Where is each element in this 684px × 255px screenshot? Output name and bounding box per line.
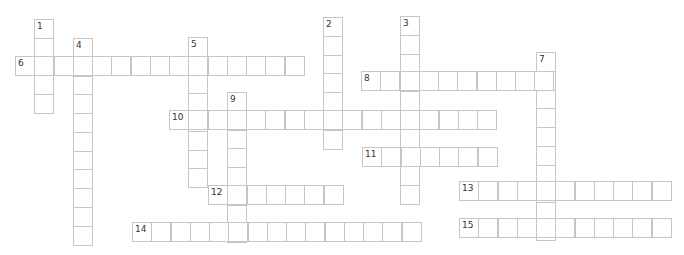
- crossword-cell[interactable]: [265, 56, 285, 76]
- crossword-cell[interactable]: [208, 110, 228, 130]
- crossword-cell[interactable]: [151, 222, 171, 242]
- crossword-cell[interactable]: [323, 73, 343, 93]
- crossword-cell[interactable]: [323, 92, 343, 112]
- crossword-cell[interactable]: [419, 110, 439, 130]
- crossword-cell[interactable]: [477, 71, 497, 91]
- crossword-cell[interactable]: [247, 185, 267, 205]
- crossword-cell[interactable]: [188, 75, 208, 95]
- crossword-cell[interactable]: [420, 147, 440, 167]
- crossword-cell[interactable]: [478, 181, 498, 201]
- crossword-cell[interactable]: [188, 131, 208, 151]
- crossword-cell[interactable]: [111, 56, 131, 76]
- crossword-cell[interactable]: [381, 147, 401, 167]
- crossword-cell[interactable]: [227, 167, 247, 187]
- crossword-cell[interactable]: [286, 222, 306, 242]
- crossword-cell[interactable]: [73, 94, 93, 114]
- crossword-cell[interactable]: 4: [73, 38, 93, 58]
- crossword-cell[interactable]: [227, 185, 247, 205]
- crossword-cell[interactable]: [285, 110, 305, 130]
- crossword-cell[interactable]: [285, 185, 305, 205]
- crossword-cell[interactable]: [362, 110, 382, 130]
- crossword-cell[interactable]: [400, 129, 420, 149]
- crossword-cell[interactable]: [73, 76, 93, 96]
- crossword-cell[interactable]: [73, 56, 93, 76]
- crossword-cell[interactable]: [477, 110, 497, 130]
- crossword-cell[interactable]: [188, 56, 208, 76]
- crossword-cell[interactable]: 15: [459, 218, 479, 238]
- crossword-cell[interactable]: [265, 110, 285, 130]
- crossword-cell[interactable]: [73, 132, 93, 152]
- crossword-cell[interactable]: 10: [169, 110, 189, 130]
- crossword-cell[interactable]: [381, 110, 401, 130]
- crossword-cell[interactable]: [496, 71, 516, 91]
- crossword-cell[interactable]: [227, 130, 247, 150]
- crossword-cell[interactable]: 12: [208, 185, 228, 205]
- crossword-cell[interactable]: [188, 110, 208, 130]
- crossword-cell[interactable]: [400, 185, 420, 205]
- crossword-cell[interactable]: 2: [323, 17, 343, 37]
- crossword-cell[interactable]: [478, 218, 498, 238]
- crossword-cell[interactable]: [73, 169, 93, 189]
- crossword-cell[interactable]: [323, 55, 343, 75]
- crossword-cell[interactable]: [536, 218, 556, 238]
- crossword-cell[interactable]: [248, 222, 268, 242]
- crossword-cell[interactable]: 9: [227, 92, 247, 112]
- crossword-cell[interactable]: [73, 188, 93, 208]
- crossword-cell[interactable]: [536, 90, 556, 110]
- crossword-cell[interactable]: [73, 226, 93, 246]
- crossword-cell[interactable]: [517, 181, 537, 201]
- crossword-cell[interactable]: [209, 222, 229, 242]
- crossword-cell[interactable]: [227, 56, 247, 76]
- crossword-cell[interactable]: [34, 56, 54, 76]
- crossword-cell[interactable]: [382, 222, 402, 242]
- crossword-cell[interactable]: [171, 222, 191, 242]
- crossword-cell[interactable]: [517, 218, 537, 238]
- crossword-cell[interactable]: [324, 185, 344, 205]
- crossword-cell[interactable]: [594, 218, 614, 238]
- crossword-cell[interactable]: [73, 113, 93, 133]
- crossword-cell[interactable]: [555, 181, 575, 201]
- crossword-cell[interactable]: [536, 127, 556, 147]
- crossword-cell[interactable]: [208, 56, 228, 76]
- crossword-cell[interactable]: [266, 185, 286, 205]
- crossword-cell[interactable]: [534, 71, 554, 91]
- crossword-cell[interactable]: [575, 218, 595, 238]
- crossword-cell[interactable]: [536, 146, 556, 166]
- crossword-cell[interactable]: [400, 166, 420, 186]
- crossword-cell[interactable]: [419, 71, 439, 91]
- crossword-cell[interactable]: [54, 56, 74, 76]
- crossword-cell[interactable]: 11: [362, 147, 382, 167]
- crossword-cell[interactable]: [150, 56, 170, 76]
- crossword-cell[interactable]: [73, 151, 93, 171]
- crossword-cell[interactable]: [536, 108, 556, 128]
- crossword-cell[interactable]: [439, 110, 459, 130]
- crossword-cell[interactable]: [227, 110, 247, 130]
- crossword-cell[interactable]: [652, 181, 672, 201]
- crossword-cell[interactable]: [92, 56, 112, 76]
- crossword-cell[interactable]: [246, 110, 266, 130]
- crossword-cell[interactable]: [613, 218, 633, 238]
- crossword-cell[interactable]: [304, 185, 324, 205]
- crossword-cell[interactable]: [227, 148, 247, 168]
- crossword-cell[interactable]: [652, 218, 672, 238]
- crossword-cell[interactable]: [246, 56, 266, 76]
- crossword-cell[interactable]: [267, 222, 287, 242]
- crossword-cell[interactable]: [536, 181, 556, 201]
- crossword-cell[interactable]: [34, 38, 54, 58]
- crossword-cell[interactable]: [402, 222, 422, 242]
- crossword-cell[interactable]: [515, 71, 535, 91]
- crossword-cell[interactable]: [34, 94, 54, 114]
- crossword-cell[interactable]: [400, 35, 420, 55]
- crossword-cell[interactable]: [400, 110, 420, 130]
- crossword-cell[interactable]: [575, 181, 595, 201]
- crossword-cell[interactable]: [34, 75, 54, 95]
- crossword-cell[interactable]: [188, 168, 208, 188]
- crossword-cell[interactable]: [190, 222, 210, 242]
- crossword-cell[interactable]: 13: [459, 181, 479, 201]
- crossword-cell[interactable]: [439, 147, 459, 167]
- crossword-cell[interactable]: [363, 222, 383, 242]
- crossword-cell[interactable]: [498, 218, 518, 238]
- crossword-cell[interactable]: 5: [188, 37, 208, 57]
- crossword-cell[interactable]: [632, 181, 652, 201]
- crossword-cell[interactable]: [632, 218, 652, 238]
